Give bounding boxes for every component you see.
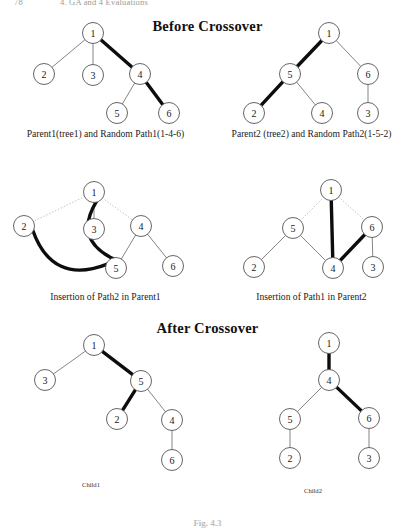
tree-node-label: 4: [170, 415, 175, 426]
figure-number: Fig. 4.3: [0, 518, 415, 528]
edge-1-2: [52, 39, 86, 67]
tree-node-label: 1: [327, 338, 332, 349]
caption-child1: Child1: [26, 481, 156, 488]
edge-1-6: [338, 197, 364, 221]
tree-diagrams-layer: 123456156243123456156243135246145623: [0, 0, 415, 528]
tree-node-label: 1: [92, 340, 97, 351]
edge-1-5: [300, 197, 324, 221]
tree-node-label: 5: [115, 108, 120, 119]
edge-4-5: [122, 83, 135, 105]
tree-node-label: 4: [138, 69, 143, 80]
edge-1-2: [33, 196, 85, 221]
edge-1-5: [297, 40, 322, 67]
tree-node-label: 3: [91, 70, 96, 81]
tree-insertion1: 123456: [14, 182, 184, 279]
tree-parent1: 123456: [34, 23, 180, 124]
tree-node-label: 2: [22, 221, 27, 232]
figure-page: 784. GA and 4 Evaluations Before Crossov…: [0, 0, 415, 528]
edge-5-4: [147, 389, 166, 412]
tree-node-label: 2: [252, 262, 257, 273]
caption-parent2: Parent2 (tree2) and Random Path2(1-5-2): [214, 128, 409, 139]
tree-node-label: 5: [139, 376, 144, 387]
tree-node-label: 2: [42, 69, 47, 80]
tree-node-label: 3: [367, 453, 372, 464]
edge-5-2: [261, 81, 283, 105]
edge-6-3: [372, 237, 373, 257]
tree-node-label: 3: [43, 375, 48, 386]
edge-1-5: [102, 351, 133, 375]
tree-node-label: 6: [370, 222, 375, 233]
edge-1-6: [336, 40, 361, 67]
caption-insertion2: Insertion of Path1 in Parent2: [214, 291, 409, 302]
tree-child1: 135246: [35, 335, 183, 471]
edge-4-6: [340, 234, 365, 261]
tree-node-label: 4: [327, 375, 332, 386]
tree-parent2: 156243: [244, 23, 379, 124]
tree-node-label: 3: [366, 108, 371, 119]
caption-insertion1: Insertion of Path2 in Parent1: [8, 291, 203, 302]
edge-4-6: [146, 82, 163, 105]
tree-node-label: 1: [327, 28, 332, 39]
edge-4-6: [336, 387, 362, 411]
edge-4-5: [297, 387, 322, 412]
edge-1-4: [331, 200, 332, 258]
tree-node-label: 4: [139, 221, 144, 232]
tree-node-label: 1: [91, 28, 96, 39]
tree-node-label: 2: [288, 453, 293, 464]
edge-4-5: [121, 235, 136, 260]
tree-node-label: 3: [371, 262, 376, 273]
edge-5-2: [261, 235, 286, 260]
tree-node-label: 3: [92, 224, 97, 235]
tree-node-label: 5: [114, 263, 119, 274]
tree-node-label: 6: [171, 261, 176, 272]
tree-node-label: 6: [367, 413, 372, 424]
tree-node-label: 5: [288, 69, 293, 80]
edge-5-4: [300, 235, 326, 261]
edge-1-4: [102, 198, 133, 220]
tree-node-label: 1: [92, 187, 97, 198]
tree-child2: 145623: [280, 333, 380, 469]
tree-insertion2: 156243: [244, 180, 384, 279]
caption-parent1: Parent1(tree1) and Random Path1(1-4-6): [8, 128, 203, 139]
edge-5-4: [296, 82, 315, 106]
tree-node-label: 4: [320, 108, 325, 119]
tree-node-label: 4: [331, 263, 336, 274]
edge-5-2: [122, 389, 135, 410]
edge-4-6: [147, 234, 167, 258]
tree-node-label: 5: [291, 223, 296, 234]
tree-node-label: 6: [366, 69, 371, 80]
edge-1-4: [101, 40, 133, 68]
tree-node-label: 6: [167, 108, 172, 119]
caption-child2: Child2: [248, 487, 378, 494]
tree-node-label: 2: [252, 108, 257, 119]
tree-node-label: 5: [288, 414, 293, 425]
tree-node-label: 1: [329, 185, 334, 196]
edge-1-3: [53, 351, 86, 374]
tree-node-label: 2: [115, 414, 120, 425]
tree-node-label: 6: [170, 455, 175, 466]
